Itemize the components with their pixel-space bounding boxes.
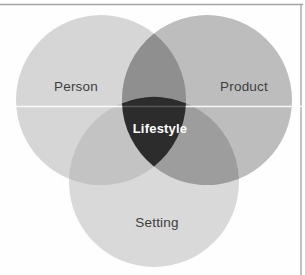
person-label: Person — [54, 79, 98, 94]
venn-diagram-canvas — [0, 0, 305, 275]
product-label: Product — [220, 79, 268, 94]
venn-diagram: Person Product Setting Lifestyle — [0, 0, 305, 275]
lifestyle-label: Lifestyle — [133, 121, 188, 136]
setting-label: Setting — [135, 215, 178, 230]
